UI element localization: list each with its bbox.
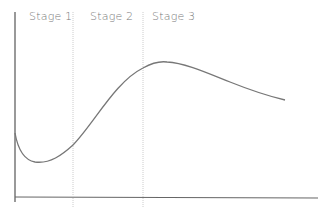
stage-diagram — [0, 0, 327, 221]
stage-1-label: Stage 1 — [29, 10, 72, 23]
stage-2-label: Stage 2 — [90, 10, 133, 23]
growth-curve — [15, 62, 285, 163]
x-axis — [15, 197, 318, 198]
stage-3-label: Stage 3 — [152, 10, 195, 23]
